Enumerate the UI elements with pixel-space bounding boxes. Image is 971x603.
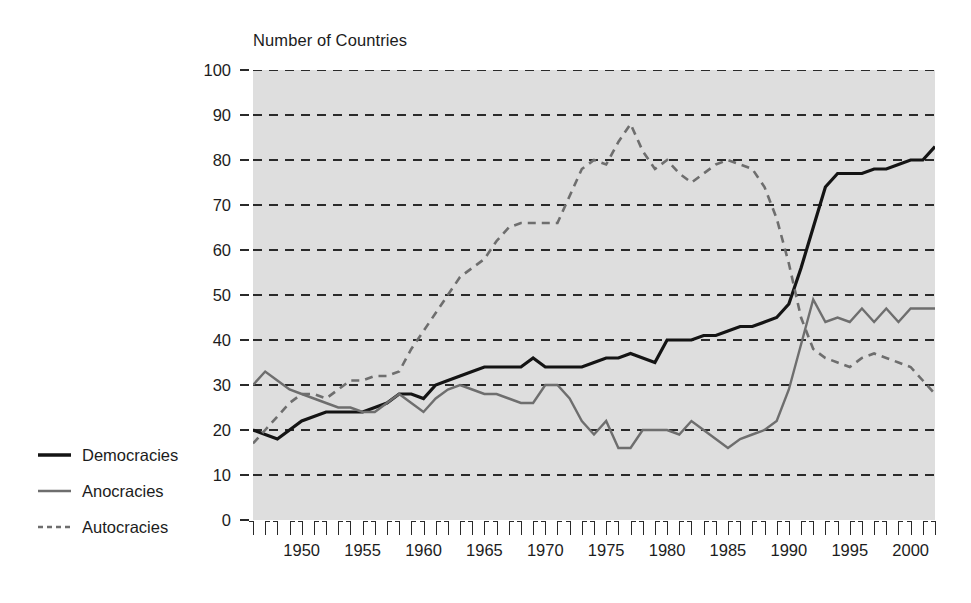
x-tick-mark	[594, 521, 595, 535]
x-tick-hook	[679, 521, 684, 522]
x-tick-mark	[350, 521, 351, 535]
x-tick-hook	[777, 521, 782, 522]
y-tick-mark	[240, 474, 249, 476]
y-tick-label: 90	[185, 106, 231, 125]
x-tick-label: 1970	[527, 541, 564, 560]
y-tick-mark	[240, 519, 249, 521]
x-tick-mark	[448, 521, 449, 535]
x-tick-label: 1995	[831, 541, 868, 560]
x-tick-hook	[606, 521, 611, 522]
x-tick-hook	[249, 521, 254, 522]
x-tick-hook	[801, 521, 806, 522]
x-tick-label: 1955	[344, 541, 381, 560]
x-axis-ticks	[253, 521, 935, 536]
x-tick-mark	[923, 521, 924, 535]
x-tick-mark	[424, 521, 425, 535]
x-tick-mark	[886, 521, 887, 535]
x-tick-mark	[570, 521, 571, 535]
x-tick-hook	[704, 521, 709, 522]
x-tick-hook	[363, 521, 368, 522]
x-tick-mark	[375, 521, 376, 535]
y-tick-label: 70	[185, 196, 231, 215]
x-tick-mark	[606, 521, 607, 535]
x-tick-hook	[825, 521, 830, 522]
x-tick-mark	[667, 521, 668, 535]
y-tick-mark	[240, 294, 249, 296]
x-tick-hook	[411, 521, 416, 522]
y-tick-label: 100	[185, 61, 231, 80]
x-tick-hook	[882, 521, 887, 522]
x-tick-hook	[663, 521, 668, 522]
legend-line-icon	[38, 448, 71, 462]
x-tick-mark	[314, 521, 315, 535]
x-tick-mark	[326, 521, 327, 535]
x-tick-hook	[687, 521, 692, 522]
x-tick-mark	[290, 521, 291, 535]
legend-label: Autocracies	[82, 518, 168, 537]
x-tick-mark	[253, 521, 254, 535]
x-tick-hook	[785, 521, 790, 522]
x-tick-mark	[277, 521, 278, 535]
x-tick-mark	[582, 521, 583, 535]
legend-label: Anocracies	[82, 482, 164, 501]
x-tick-hook	[517, 521, 522, 522]
x-tick-hook	[590, 521, 595, 522]
x-tick-hook	[874, 521, 879, 522]
y-tick-mark	[240, 384, 249, 386]
x-tick-mark	[935, 521, 936, 535]
x-tick-hook	[533, 521, 538, 522]
y-tick-label: 60	[185, 241, 231, 260]
x-tick-hook	[420, 521, 425, 522]
legend-line-icon	[38, 484, 71, 498]
x-tick-label: 1980	[649, 541, 686, 560]
x-tick-mark	[777, 521, 778, 535]
y-tick-mark	[240, 204, 249, 206]
x-tick-mark	[752, 521, 753, 535]
x-tick-hook	[907, 521, 912, 522]
y-tick-label: 0	[185, 511, 231, 530]
x-tick-hook	[557, 521, 562, 522]
x-tick-hook	[834, 521, 839, 522]
x-tick-hook	[265, 521, 270, 522]
x-tick-mark	[789, 521, 790, 535]
x-tick-hook	[314, 521, 319, 522]
y-tick-label: 20	[185, 421, 231, 440]
x-tick-hook	[541, 521, 546, 522]
x-tick-mark	[813, 521, 814, 535]
x-tick-hook	[923, 521, 928, 522]
x-tick-hook	[850, 521, 855, 522]
series-line-anocracies	[253, 300, 935, 449]
x-tick-mark	[436, 521, 437, 535]
x-tick-mark	[874, 521, 875, 535]
x-tick-mark	[691, 521, 692, 535]
x-tick-mark	[472, 521, 473, 535]
x-tick-hook	[566, 521, 571, 522]
x-tick-hook	[468, 521, 473, 522]
x-tick-hook	[346, 521, 351, 522]
x-tick-hook	[761, 521, 766, 522]
x-tick-mark	[740, 521, 741, 535]
y-tick-mark	[240, 69, 249, 71]
legend-line-icon	[38, 520, 71, 534]
x-tick-label: 1985	[710, 541, 747, 560]
x-tick-label: 1965	[466, 541, 503, 560]
y-tick-label: 30	[185, 376, 231, 395]
y-tick-mark	[240, 159, 249, 161]
x-tick-mark	[655, 521, 656, 535]
plot-area	[253, 70, 935, 520]
series-line-democracies	[253, 147, 935, 440]
y-tick-label: 80	[185, 151, 231, 170]
chart-figure: Number of Countries 19501955196019651970…	[0, 0, 971, 603]
x-tick-mark	[898, 521, 899, 535]
x-tick-mark	[338, 521, 339, 535]
x-tick-mark	[838, 521, 839, 535]
x-tick-mark	[265, 521, 266, 535]
x-tick-mark	[557, 521, 558, 535]
y-tick-mark	[240, 114, 249, 116]
x-tick-mark	[533, 521, 534, 535]
legend-label: Democracies	[82, 446, 178, 465]
x-tick-hook	[752, 521, 757, 522]
x-tick-mark	[618, 521, 619, 535]
x-tick-mark	[545, 521, 546, 535]
x-tick-hook	[436, 521, 441, 522]
